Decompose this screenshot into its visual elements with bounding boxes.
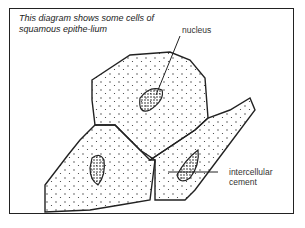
squamous-cells-illustration [0, 0, 305, 228]
label-nucleus: nucleus [182, 25, 211, 35]
label-intercellular-cement: intercellular cement [229, 167, 289, 187]
